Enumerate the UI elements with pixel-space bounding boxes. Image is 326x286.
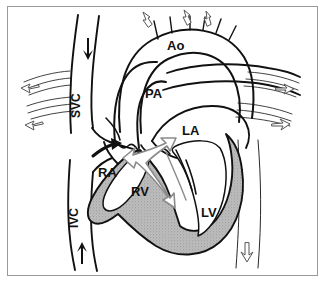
arch-branch-arrows bbox=[143, 10, 211, 27]
label-svc: SVC bbox=[69, 93, 83, 118]
right-pulmonary-arrows bbox=[272, 84, 294, 130]
label-right-ventricle: RV bbox=[131, 184, 149, 199]
aortic-arch-branches bbox=[154, 16, 236, 40]
figure-root: Ao PA LA RA RV LV SVC IVC bbox=[0, 0, 326, 286]
descending-aorta-arrow bbox=[241, 243, 253, 262]
svc-inflow-arrow bbox=[83, 38, 93, 60]
right-pulmonary-vessels bbox=[236, 72, 299, 126]
label-right-atrium: RA bbox=[98, 165, 117, 180]
label-aorta: Ao bbox=[167, 38, 184, 53]
left-pulmonary-vessels bbox=[24, 71, 74, 119]
pulmonary-artery-trunk bbox=[114, 62, 166, 148]
label-left-ventricle: LV bbox=[201, 205, 217, 220]
heart-diagram: Ao PA LA RA RV LV SVC IVC bbox=[0, 0, 326, 286]
label-ivc: IVC bbox=[67, 208, 81, 228]
ivc-inflow-arrow bbox=[77, 242, 87, 264]
label-pulmonary-artery: PA bbox=[145, 86, 163, 101]
label-left-atrium: LA bbox=[182, 123, 200, 138]
